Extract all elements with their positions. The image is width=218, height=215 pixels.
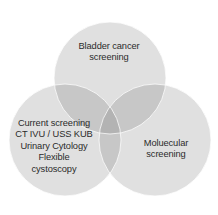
- venn-diagram: Bladder cancer screening Current screeni…: [0, 0, 218, 215]
- venn-circles-graphic: [0, 0, 218, 215]
